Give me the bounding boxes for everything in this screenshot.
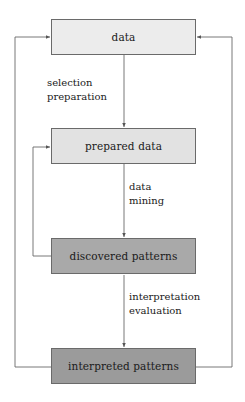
- edge-label-line: data: [129, 180, 164, 194]
- node-label: data: [112, 31, 136, 43]
- node-label: prepared data: [85, 140, 162, 152]
- edge-label-data-mining: data mining: [129, 180, 164, 208]
- connector-lines: [0, 0, 245, 402]
- loop-discovered-to-prepared: [33, 147, 51, 256]
- edge-label-line: evaluation: [129, 304, 200, 318]
- edge-label-interpretation-evaluation: interpretation evaluation: [129, 290, 200, 318]
- loop-right-interpreted-to-data: [196, 37, 232, 367]
- edge-label-line: preparation: [47, 90, 107, 104]
- edge-label-selection-preparation: selection preparation: [47, 76, 107, 104]
- node-prepared-data: prepared data: [51, 128, 196, 164]
- edge-label-line: mining: [129, 194, 164, 208]
- edge-label-line: selection: [47, 76, 107, 90]
- edge-label-line: interpretation: [129, 290, 200, 304]
- node-label: discovered patterns: [70, 250, 178, 262]
- node-label: interpreted patterns: [68, 360, 179, 372]
- kdd-process-diagram: data prepared data discovered patterns i…: [0, 0, 245, 402]
- node-data: data: [51, 19, 196, 55]
- node-discovered-patterns: discovered patterns: [51, 238, 196, 274]
- node-interpreted-patterns: interpreted patterns: [51, 348, 196, 384]
